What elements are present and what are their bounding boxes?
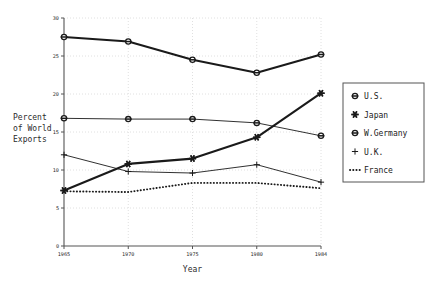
y-axis-tick-label: 5 — [56, 205, 59, 211]
x-axis-tick-label: 1965 — [58, 251, 71, 257]
legend: U.S.JapanW.GermanyU.K.France — [343, 83, 424, 182]
y-axis-title-line: Exports — [13, 135, 47, 144]
chart-root: 05101520253019651970197519801984YearPerc… — [0, 0, 435, 285]
legend-label: U.S. — [364, 92, 383, 101]
x-axis-tick-label: 1975 — [186, 251, 199, 257]
x-axis-tick-label: 1984 — [315, 251, 328, 257]
legend-label: Japan — [364, 111, 388, 120]
legend-label: W.Germany — [364, 129, 408, 138]
y-axis-tick-label: 20 — [53, 91, 59, 97]
y-axis-tick-label: 30 — [53, 15, 59, 21]
x-axis-tick-label: 1970 — [122, 251, 135, 257]
y-axis-title-line: of World — [13, 124, 52, 133]
legend-label: U.K. — [364, 148, 383, 157]
y-axis-tick-label: 10 — [53, 167, 59, 173]
series-line — [64, 183, 321, 192]
x-axis-title: Year — [183, 265, 202, 274]
y-axis-tick-label: 15 — [53, 129, 59, 135]
y-axis-tick-label: 25 — [53, 53, 59, 59]
x-axis-tick-label: 1980 — [251, 251, 264, 257]
legend-label: France — [364, 166, 393, 175]
world-exports-line-chart: 05101520253019651970197519801984YearPerc… — [0, 0, 435, 285]
y-axis-tick-label: 0 — [56, 243, 59, 249]
y-axis-title-line: Percent — [13, 113, 47, 122]
series-france — [64, 183, 321, 192]
